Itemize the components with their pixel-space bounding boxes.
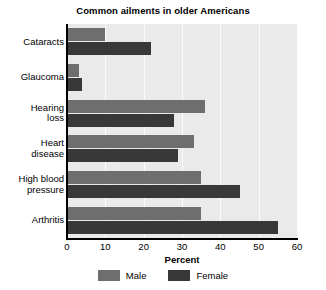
x-tick-label: 60 [292,241,303,252]
x-tick-label: 50 [253,241,264,252]
x-axis-line [66,238,298,240]
bar-male-1 [67,64,79,77]
legend-label: Female [196,270,228,281]
bar-female-2 [67,114,174,127]
legend-item: Female [168,270,228,281]
bar-female-0 [67,42,151,55]
legend-swatch-female [168,270,190,281]
bar-male-5 [67,207,201,220]
x-tick-label: 0 [64,241,69,252]
category-label: Hearing loss [0,103,64,124]
x-tick-label: 10 [100,241,111,252]
y-axis-line [66,24,68,238]
bar-male-4 [67,171,201,184]
category-label: Arthritis [0,215,64,226]
gridline [297,24,298,238]
bar-female-5 [67,221,278,234]
bar-female-1 [67,78,82,91]
x-tick-label: 40 [215,241,226,252]
plot-area [67,24,297,238]
gridline [220,24,221,238]
bar-male-2 [67,100,205,113]
bar-female-4 [67,185,240,198]
legend-swatch-male [98,270,120,281]
legend-label: Male [126,270,147,281]
chart-title: Common ailments in older Americans [0,5,326,16]
bar-female-3 [67,149,178,162]
bar-chart: Common ailments in older Americans Catar… [0,0,326,290]
bar-male-0 [67,28,105,41]
category-label: Heart disease [0,138,64,159]
category-label: Cataracts [0,37,64,48]
category-label: High blood pressure [0,174,64,195]
legend-item: Male [98,270,147,281]
x-axis-title: Percent [67,254,297,265]
x-tick-label: 30 [177,241,188,252]
gridline [259,24,260,238]
category-label: Glaucoma [0,72,64,83]
chart-legend: MaleFemale [0,270,326,281]
bar-male-3 [67,135,194,148]
x-tick-label: 20 [138,241,149,252]
